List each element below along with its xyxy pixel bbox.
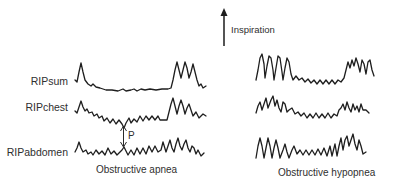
hypopnea-ripabdomen-trace [256,134,366,158]
caption-obstructive-hypopnea: Obstructive hypopnea [278,167,375,179]
inspiration-label: Inspiration [231,24,275,36]
row-label-ripabdomen: RIPabdomen [7,146,68,158]
inspiration-arrow-icon [221,8,228,46]
row-label-ripchest: RIPchest [25,101,68,113]
waveform-diagram [0,0,398,186]
hypopnea-ripchest-trace [256,96,369,118]
p-annotation-label: P [128,130,135,142]
row-label-ripsum: RIPsum [31,75,68,87]
caption-obstructive-apnea: Obstructive apnea [96,164,177,176]
p-measurement-arrow-icon [121,126,127,147]
hypopnea-ripsum-trace [256,54,374,84]
apnea-ripchest-trace [75,98,206,128]
apnea-ripabdomen-trace [75,138,204,156]
apnea-ripsum-trace [75,62,206,91]
